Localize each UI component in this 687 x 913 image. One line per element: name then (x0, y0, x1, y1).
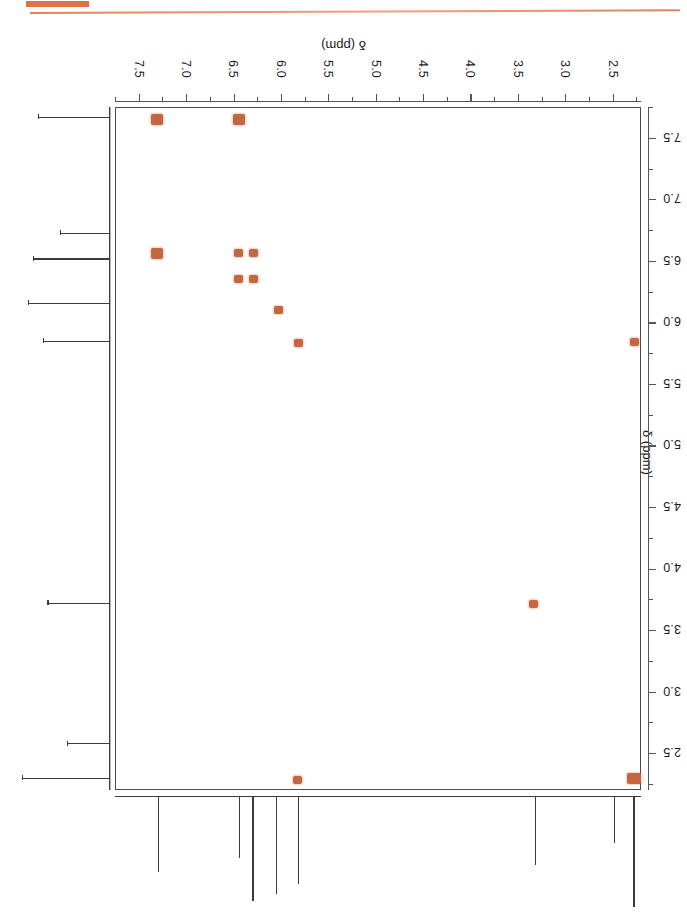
f2-projection-peak-cap (295, 796, 300, 797)
f1-projection-peak (22, 778, 110, 779)
right-axis-minor-tick (649, 784, 653, 785)
top-axis-minor-tick (542, 97, 543, 101)
x-tick-label: 4.5 (416, 55, 430, 83)
right-axis-major-tick (649, 384, 656, 385)
y-tick-label: 3.0 (659, 684, 685, 698)
cross-peak (233, 114, 245, 125)
f1-projection-peak-cap (43, 338, 44, 343)
f2-projection-peak (158, 796, 159, 872)
x-tick-label: 6.0 (274, 55, 288, 83)
diagonal-peak (294, 339, 303, 347)
f2-projection-peak-cap (155, 796, 160, 797)
f2-projection-trace (115, 796, 641, 913)
y-tick-label: 5.5 (659, 376, 685, 390)
f2-projection-peak (252, 796, 253, 901)
f1-projection-peak (38, 117, 110, 118)
right-axis-minor-tick (649, 230, 653, 231)
y-tick-label: 2.5 (659, 745, 685, 759)
cross-peak (249, 249, 258, 257)
right-axis-major-tick (649, 138, 656, 139)
f2-projection-peak-cap (274, 796, 279, 797)
right-axis-major-tick (649, 630, 656, 631)
top-axis-minor-tick (636, 97, 637, 101)
top-axis-major-tick (470, 94, 471, 101)
f2-projection-peak-cap (250, 796, 255, 797)
top-axis-major-tick (376, 94, 377, 101)
f1-projection-peak-cap (38, 114, 39, 119)
diagonal-peak (529, 600, 538, 608)
x-tick-label: 2.5 (606, 55, 620, 83)
x-tick-label: 7.5 (132, 55, 146, 83)
f1-projection-peak (28, 303, 110, 304)
diagonal-peak (627, 773, 641, 784)
f1-projection-peak-cap (22, 775, 23, 780)
y-tick-label: 6.5 (659, 253, 685, 267)
x-tick-label: 4.0 (463, 55, 477, 83)
cross-peak (293, 776, 302, 784)
f2-trace-baseline (115, 796, 641, 797)
right-axis-minor-tick (649, 538, 653, 539)
cosy-spectrum-figure: δ (ppm) δ (ppm) 2.53.03.54.04.55.05.56.0… (0, 0, 687, 913)
top-axis-major-tick (423, 94, 424, 101)
top-axis-minor-tick (210, 97, 211, 101)
top-axis-major-tick (518, 94, 519, 101)
f2-projection-peak (298, 796, 299, 884)
f1-projection-peak (48, 603, 110, 604)
f2-projection-peak (633, 796, 634, 907)
top-axis-minor-tick (589, 97, 590, 101)
f1-projection-peak-cap (47, 600, 48, 605)
right-axis-minor-tick (649, 415, 653, 416)
right-axis-major-tick (649, 445, 656, 446)
right-axis-minor-tick (649, 292, 653, 293)
f1-projection-peak-cap (28, 300, 29, 305)
f1-projection-peak (43, 341, 110, 342)
top-axis-major-tick (281, 94, 282, 101)
top-axis-major-tick (565, 94, 566, 101)
top-axis-minor-tick (257, 97, 258, 101)
x-tick-label: 3.5 (511, 55, 525, 83)
right-axis-major-tick (649, 753, 656, 754)
f2-projection-peak-cap (237, 796, 242, 797)
right-axis-line (648, 107, 649, 790)
top-axis-major-tick (328, 94, 329, 101)
y-tick-label: 7.0 (659, 191, 685, 205)
right-axis-minor-tick (649, 107, 653, 108)
spectrum-plot-area (115, 107, 641, 790)
f2-projection-peak (276, 796, 277, 894)
f1-projection-peak (33, 258, 110, 259)
diagonal-peak (630, 338, 639, 346)
diagonal-peak (151, 114, 163, 125)
cross-peak (234, 275, 243, 283)
top-axis-major-tick (613, 94, 614, 101)
y-tick-label: 5.0 (659, 437, 685, 451)
f2-projection-peak (614, 796, 615, 843)
y-tick-label: 3.5 (659, 622, 685, 636)
right-axis-minor-tick (649, 599, 653, 600)
f1-projection-peak-cap (67, 741, 68, 746)
x-tick-label: 6.5 (226, 55, 240, 83)
x-tick-label: 7.0 (179, 55, 193, 83)
y-tick-label: 6.0 (659, 314, 685, 328)
cross-peak (151, 248, 163, 259)
x-tick-label: 5.5 (321, 55, 335, 83)
right-axis-minor-tick (649, 353, 653, 354)
right-axis-minor-tick (649, 661, 653, 662)
f2-projection-peak-cap (611, 796, 616, 797)
plot-frame-shadow-line (110, 107, 111, 790)
y-tick-label: 4.5 (659, 499, 685, 513)
top-axis-minor-tick (352, 97, 353, 101)
f2-projection-peak-cap (631, 796, 636, 797)
f1-projection-peak-cap (33, 256, 34, 261)
right-axis-major-tick (649, 692, 656, 693)
diagonal-peak (274, 306, 283, 314)
cross-peak (249, 275, 258, 283)
right-axis-major-tick (649, 261, 656, 262)
y-tick-label: 4.0 (659, 560, 685, 574)
right-axis-minor-tick (649, 722, 653, 723)
f2-projection-peak (535, 796, 536, 865)
f1-projection-peak-cap (60, 230, 61, 235)
top-axis-minor-tick (305, 97, 306, 101)
f1-projection-trace (6, 107, 110, 790)
right-axis-major-tick (649, 507, 656, 508)
top-axis-minor-tick (447, 97, 448, 101)
